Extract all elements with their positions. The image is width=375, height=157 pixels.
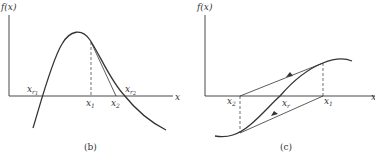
- label-xr2: xr2: [125, 84, 136, 96]
- tangent-b: [91, 42, 116, 96]
- label-x2-b: x2: [111, 98, 120, 109]
- ylabel-c: f(x): [196, 2, 213, 12]
- panel-b-labels: f(x) x xr1 x1 x2 xr2 (b): [0, 2, 180, 152]
- diagram-canvas: f(x) x xr1 x1 x2 xr2 (b) f(x) x x2 xr x1…: [0, 0, 375, 157]
- label-xr1: xr1: [27, 84, 38, 96]
- label-x2-c: x2: [227, 96, 236, 107]
- ylabel-b: f(x): [0, 2, 17, 12]
- panel-c: [205, 15, 375, 137]
- label-xr-c: xr: [282, 98, 291, 109]
- arrow-top-icon: [286, 72, 293, 77]
- secant-top-c: [240, 63, 323, 96]
- curve-b: [33, 32, 166, 130]
- xlabel-c: x: [371, 92, 375, 102]
- panel-b: [9, 15, 173, 130]
- caption-b: (b): [84, 142, 97, 152]
- label-x1-c: x1: [324, 96, 333, 107]
- label-x1-b: x1: [86, 98, 95, 109]
- xlabel-b: x: [175, 92, 180, 102]
- caption-c: (c): [280, 142, 292, 152]
- panel-c-labels: f(x) x x2 xr x1 (c): [196, 2, 375, 152]
- arrow-bottom-icon: [271, 111, 278, 116]
